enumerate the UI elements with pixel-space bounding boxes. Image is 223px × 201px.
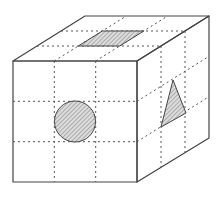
parallelogram-shape: [78, 31, 143, 46]
triangle-shape: [161, 80, 186, 127]
front-face: [13, 61, 137, 182]
top-face: [13, 16, 209, 61]
cube-diagram: [0, 0, 223, 201]
circle-shape: [55, 101, 96, 142]
right-face: [137, 16, 209, 182]
